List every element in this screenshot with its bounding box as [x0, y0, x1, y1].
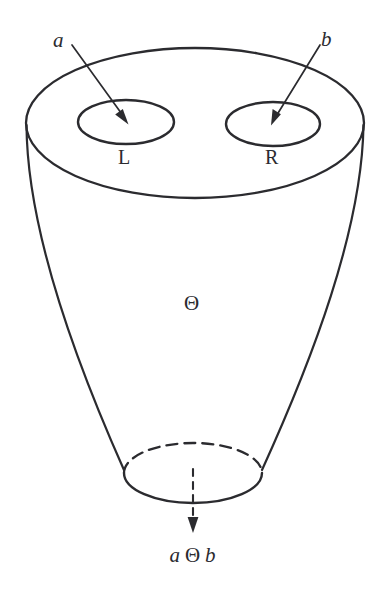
label-hole-left: L — [118, 147, 130, 167]
result-operator: Θ — [180, 543, 205, 567]
result-right-operand: b — [205, 543, 216, 567]
dashed-arrow-down-icon — [188, 469, 199, 533]
top-rim-ellipse — [26, 48, 364, 198]
label-input-b: b — [321, 29, 332, 50]
label-operator-theta: Θ — [184, 293, 199, 314]
label-hole-right: R — [265, 147, 278, 167]
label-result-expression: aΘb — [0, 545, 385, 566]
hole-right-ellipse — [226, 102, 320, 146]
label-input-a: a — [53, 30, 64, 51]
result-left-operand: a — [169, 543, 180, 567]
figure-root: a b L R Θ aΘb — [0, 0, 385, 597]
